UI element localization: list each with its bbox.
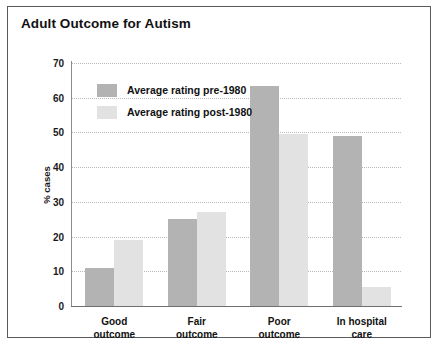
legend-swatch-icon <box>97 106 117 119</box>
chart-legend: Average rating pre-1980Average rating po… <box>97 79 252 123</box>
y-tick-label: 70 <box>53 58 64 69</box>
x-tick-label-line: Good <box>93 315 135 328</box>
legend-label: Average rating pre-1980 <box>127 84 246 96</box>
legend-swatch-icon <box>97 84 117 97</box>
bar-group: In hospitalcare <box>333 63 391 306</box>
x-tick-label-line: care <box>337 328 387 341</box>
x-tick-label: Fairoutcome <box>176 315 218 341</box>
y-tick-label: 50 <box>53 127 64 138</box>
y-tick-label: 0 <box>58 301 64 312</box>
bar-post-1980 <box>114 240 143 306</box>
bar-post-1980 <box>279 134 308 306</box>
x-tick-label-line: Poor <box>258 315 300 328</box>
x-tick-label-line: In hospital <box>337 315 387 328</box>
y-tick-label: 10 <box>53 266 64 277</box>
x-tick-label: Goodoutcome <box>93 315 135 341</box>
chart-title: Adult Outcome for Autism <box>21 16 191 31</box>
bar-pre-1980 <box>168 219 197 306</box>
bar-pre-1980 <box>85 268 114 306</box>
y-tick-label: 20 <box>53 231 64 242</box>
x-tick-label: In hospitalcare <box>337 315 387 341</box>
x-tick-label: Pooroutcome <box>258 315 300 341</box>
legend-item: Average rating pre-1980 <box>97 79 252 101</box>
y-tick-label: 30 <box>53 196 64 207</box>
y-tick-label: 60 <box>53 92 64 103</box>
x-axis-line <box>71 306 402 307</box>
legend-item: Average rating post-1980 <box>97 101 252 123</box>
legend-label: Average rating post-1980 <box>127 106 252 118</box>
x-tick-label-line: outcome <box>176 328 218 341</box>
bar-pre-1980 <box>250 86 279 306</box>
bar-post-1980 <box>197 212 226 306</box>
plot-area: % cases 010203040506070 GoodoutcomeFairo… <box>71 63 401 306</box>
bar-group: Pooroutcome <box>250 63 308 306</box>
x-tick-label-line: outcome <box>258 328 300 341</box>
x-tick-label-line: outcome <box>93 328 135 341</box>
bar-pre-1980 <box>333 136 362 306</box>
bar-post-1980 <box>362 287 391 306</box>
y-axis-label: % cases <box>41 166 52 204</box>
figure-panel: Adult Outcome for Autism % cases 0102030… <box>7 6 431 338</box>
y-tick-label: 40 <box>53 162 64 173</box>
x-tick-label-line: Fair <box>176 315 218 328</box>
